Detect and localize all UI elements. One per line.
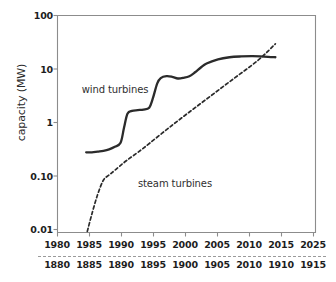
series-line-steam-turbines <box>87 44 275 231</box>
annotation-steam-turbines: steam turbines <box>138 178 212 189</box>
series-line-wind-turbines <box>86 56 275 152</box>
x-tick-label: 2025 <box>291 239 335 250</box>
x-axis-secondary-labels: 188018851890189519001905201019101915 <box>0 259 336 273</box>
x-axis-ticks <box>58 233 314 237</box>
y-axis-ticks <box>54 16 58 230</box>
chart-figure: capacity (MW) 1001010.100.01 wind turbin… <box>0 0 336 282</box>
axis-row-separator <box>38 256 326 257</box>
annotation-wind-turbines: wind turbines <box>82 84 149 95</box>
x-axis-primary-labels: 198019851990199520002005201020152025 <box>0 239 336 253</box>
x-tick-label: 1915 <box>291 259 335 270</box>
